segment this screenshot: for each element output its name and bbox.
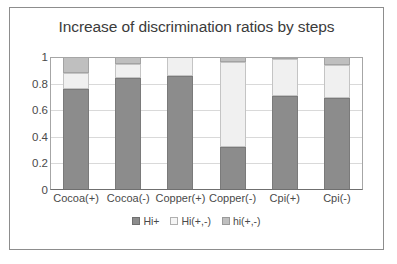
bar-segment[interactable] — [272, 59, 298, 96]
y-axis: 00.20.40.60.81 — [10, 57, 48, 190]
bar-segment[interactable] — [324, 57, 350, 65]
stacked-bar[interactable] — [272, 57, 298, 190]
bar-segment[interactable] — [115, 64, 141, 79]
bar-segment[interactable] — [63, 57, 89, 73]
bar-segment[interactable] — [272, 96, 298, 190]
legend-swatch-icon — [170, 217, 178, 225]
x-axis-tick-label: Cocoa(+) — [53, 192, 99, 204]
bar-segment[interactable] — [324, 65, 350, 98]
bar-segment[interactable] — [115, 78, 141, 190]
y-axis-tick-label: 0.8 — [14, 78, 48, 90]
x-axis-tick-label: Copper(-) — [209, 192, 256, 204]
chart-title: Increase of discrimination ratios by ste… — [10, 18, 383, 36]
y-axis-tick-label: 0 — [14, 184, 48, 196]
legend-label: hi(+,-) — [233, 215, 261, 227]
bar-segment[interactable] — [324, 98, 350, 190]
legend-item[interactable]: Hi(+,-) — [170, 215, 210, 227]
legend-swatch-icon — [132, 217, 140, 225]
y-axis-tick-label: 0.6 — [14, 104, 48, 116]
bar-slot — [259, 57, 311, 190]
x-axis: Cocoa(+)Cocoa(-)Copper(+)Copper(-)Cpi(+)… — [50, 192, 363, 212]
legend-item[interactable]: Hi+ — [132, 215, 159, 227]
legend-swatch-icon — [222, 217, 230, 225]
y-axis-tick-label: 0.2 — [14, 157, 48, 169]
chart-legend: Hi+Hi(+,-)hi(+,-) — [10, 215, 383, 227]
x-axis-tick-label: Cocoa(-) — [107, 192, 150, 204]
stacked-bar[interactable] — [63, 57, 89, 190]
legend-label: Hi+ — [143, 215, 159, 227]
bar-segment[interactable] — [167, 76, 193, 190]
bar-segment[interactable] — [167, 57, 193, 76]
chart-container: Increase of discrimination ratios by ste… — [9, 7, 384, 250]
bar-segment[interactable] — [63, 73, 89, 89]
y-axis-tick-label: 1 — [14, 51, 48, 63]
bar-slot — [102, 57, 154, 190]
stacked-bar[interactable] — [115, 57, 141, 190]
legend-item[interactable]: hi(+,-) — [222, 215, 261, 227]
stacked-bar[interactable] — [220, 57, 246, 190]
bar-segment[interactable] — [220, 147, 246, 190]
bar-slot — [154, 57, 206, 190]
stacked-bar[interactable] — [324, 57, 350, 190]
bar-segment[interactable] — [220, 62, 246, 147]
bar-segment[interactable] — [63, 89, 89, 190]
bar-slot — [207, 57, 259, 190]
x-axis-tick-label: Cpi(-) — [323, 192, 351, 204]
bar-slot — [311, 57, 363, 190]
x-axis-tick-label: Copper(+) — [155, 192, 205, 204]
bar-segment[interactable] — [115, 57, 141, 64]
legend-label: Hi(+,-) — [181, 215, 210, 227]
bar-slot — [50, 57, 102, 190]
stacked-bar[interactable] — [167, 57, 193, 190]
plot-area — [50, 57, 363, 190]
x-axis-tick-label: Cpi(+) — [270, 192, 300, 204]
y-axis-tick-label: 0.4 — [14, 131, 48, 143]
